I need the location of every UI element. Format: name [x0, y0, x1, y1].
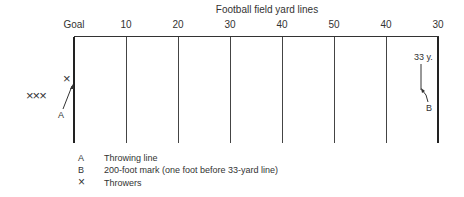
legend-row-a: AThrowing line [78, 152, 278, 164]
legend-row-b: B200-foot mark (one foot before 33-yard … [78, 164, 278, 176]
legend-key-a: A [78, 152, 104, 164]
legend-row-throwers: ×Throwers [78, 176, 278, 188]
legend-text-throwers: Throwers [104, 178, 142, 188]
legend: AThrowing line B200-foot mark (one foot … [78, 152, 278, 188]
thrower-icon: × [78, 176, 104, 188]
arrow-a-line [63, 86, 72, 109]
arrow-a-head [70, 84, 74, 89]
legend-text-a: Throwing line [104, 153, 158, 163]
legend-text-b: 200-foot mark (one foot before 33-yard l… [104, 165, 278, 175]
